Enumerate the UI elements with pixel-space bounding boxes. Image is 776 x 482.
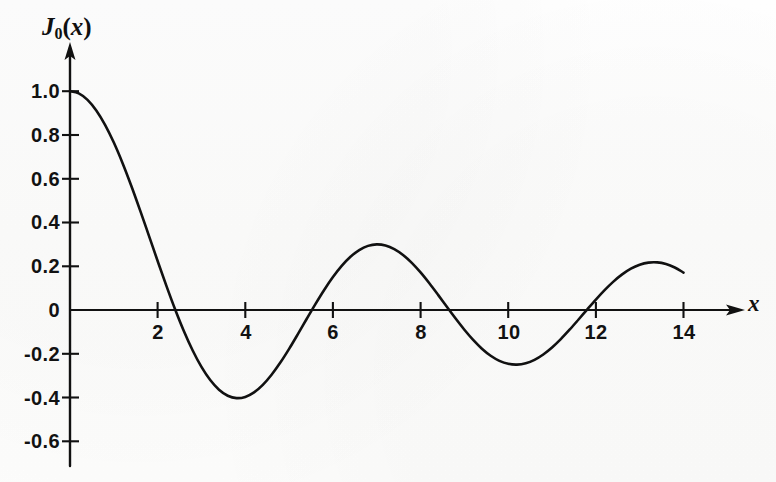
data-series-j0-curve [70, 91, 684, 398]
bessel-function-figure: J0(x) x 1.0 0.8 0.6 0.4 0.2 0 -0.2 -0.4 … [0, 0, 776, 482]
plot-canvas [0, 0, 776, 482]
axes-group [65, 42, 746, 466]
